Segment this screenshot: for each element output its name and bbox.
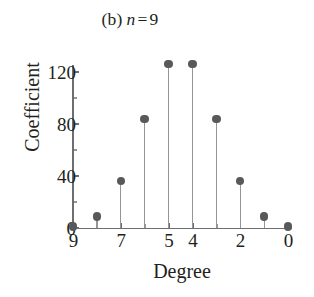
stem-degree-3 [216,119,217,228]
x-tick-label-2: 2 [228,230,254,251]
data-point-degree-6 [140,115,149,124]
x-tick-label-0: 0 [275,230,301,251]
x-tick-label-4: 4 [180,230,206,251]
stem-degree-5 [168,64,169,228]
x-axis-title: Degree [72,261,292,281]
x-tick-label-9: 9 [61,230,87,251]
y-tick-label-120: 120 [48,63,77,82]
data-point-degree-5 [164,60,173,69]
stem-degree-7 [120,181,121,228]
data-point-degree-2 [236,177,245,186]
stem-degree-4 [192,64,193,228]
y-tick-100 [74,97,77,98]
y-tick-60 [74,149,77,150]
data-point-degree-1 [260,212,269,221]
y-tick-label-80: 80 [57,115,76,134]
y-tick-20 [74,201,77,202]
plot-area: 120 80 40 0 9 7 5 4 2 0 [0,0,314,297]
data-point-degree-4 [188,60,197,69]
data-point-degree-7 [117,177,126,186]
y-axis-line [72,65,74,229]
stem-degree-6 [144,119,145,228]
y-tick-label-40: 40 [57,167,76,186]
data-point-degree-3 [212,115,221,124]
y-axis-title: Coefficient [22,27,42,187]
x-axis-line [70,228,292,230]
x-tick-label-5: 5 [156,230,182,251]
data-point-degree-8 [93,212,102,221]
figure-panel-b: (b)n=9 120 80 40 0 9 7 5 4 2 0 [0,0,314,297]
x-tick-label-7: 7 [108,230,134,251]
stem-degree-2 [240,181,241,228]
